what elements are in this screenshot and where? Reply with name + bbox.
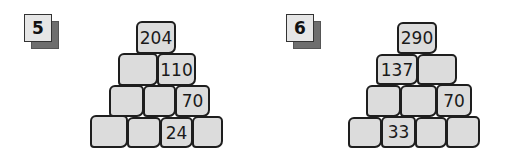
pyramid-block[interactable]: 137 [376,54,418,85]
puzzle-number-badge: 6 [286,14,314,42]
pyramid-block[interactable]: 70 [175,85,210,117]
pyramid-block[interactable] [348,117,382,148]
puzzle-number-badge: 5 [24,14,52,42]
pyramid-block[interactable] [366,85,401,117]
pyramid-block[interactable] [109,85,144,117]
pyramid-block[interactable] [446,116,480,148]
pyramid-block[interactable] [118,53,158,86]
pyramid-block[interactable]: 204 [136,21,176,54]
pyramid-block[interactable] [417,54,457,85]
pyramid-block[interactable]: 110 [157,53,196,86]
pyramid-block[interactable] [143,85,176,117]
pyramid-block[interactable]: 70 [436,84,472,117]
pyramid-block[interactable]: 290 [397,22,437,54]
badge-label: 6 [286,14,314,42]
pyramid-block[interactable]: 33 [381,116,416,148]
pyramid-block[interactable] [192,116,223,148]
pyramid-block[interactable] [90,115,128,148]
pyramid-block[interactable]: 24 [160,117,193,148]
badge-label: 5 [24,14,52,42]
pyramid-block[interactable] [127,117,161,148]
pyramid-block[interactable] [400,85,437,117]
pyramid-block[interactable] [415,117,447,148]
